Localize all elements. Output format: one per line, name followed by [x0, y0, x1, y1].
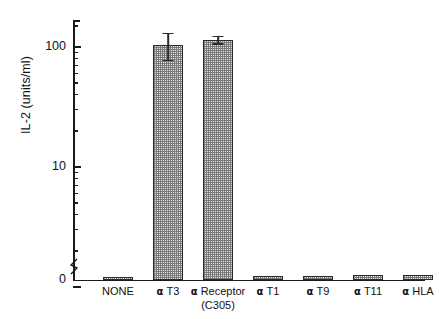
y-tick-label-100: 100	[20, 39, 66, 53]
y-tick-label-0: 0	[20, 272, 66, 286]
error-bar-cap-2-upper	[213, 36, 224, 38]
bar-rect-0	[103, 277, 133, 281]
error-bar-cap-2-lower	[213, 43, 224, 45]
plot-area	[73, 20, 425, 280]
error-bar-cap-1-lower	[163, 60, 174, 62]
error-bar-line-1	[167, 33, 169, 61]
x-label-6: α HLA	[373, 285, 439, 299]
bar-rect-3	[253, 276, 283, 280]
bar-rect-5	[353, 275, 383, 280]
bar-rect-4	[303, 276, 333, 280]
bar-rect-6	[403, 275, 433, 280]
bar-6	[403, 275, 433, 280]
bar-0	[103, 277, 133, 281]
error-bar-cap-1-upper	[163, 33, 174, 35]
error-bar-2	[203, 36, 233, 45]
bar-rect-1	[153, 45, 183, 280]
bar-2	[203, 40, 233, 280]
bar-3	[253, 276, 283, 280]
bar-1	[153, 45, 183, 280]
bar-rect-2	[203, 40, 233, 280]
error-bar-1	[153, 33, 183, 61]
y-tick-label-10: 10	[20, 159, 66, 173]
bar-5	[353, 275, 383, 280]
bar-4	[303, 276, 333, 280]
